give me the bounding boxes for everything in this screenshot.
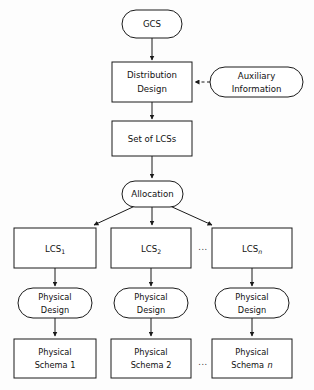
- physical-schema-2-label-line2: Schema 2: [131, 360, 172, 370]
- node-physical-design-n[interactable]: Physical Design: [215, 288, 289, 318]
- lcs2-subscript: 2: [157, 247, 161, 254]
- node-lcsn[interactable]: LCSn: [212, 228, 292, 268]
- node-allocation[interactable]: Allocation: [122, 181, 183, 207]
- node-set-of-lcss[interactable]: Set of LCSs: [112, 121, 192, 156]
- gcs-label: GCS: [143, 19, 161, 29]
- node-physical-schema-2[interactable]: Physical Schema 2: [111, 339, 191, 378]
- physical-design-1-label-line2: Design: [41, 305, 69, 315]
- distribution-design-label-line2: Design: [137, 84, 167, 94]
- physical-design-n-label-line1: Physical: [235, 292, 268, 302]
- auxiliary-information-label-line1: Auxiliary: [238, 71, 275, 81]
- physical-schema-n-suffix: n: [268, 360, 273, 370]
- edge-allocation-to-lcs1: [94, 206, 135, 225]
- distribution-design-shape: [112, 62, 192, 102]
- edge-allocation-to-lcsn: [170, 206, 212, 225]
- physical-schema-1-label-line2: Schema 1: [35, 360, 76, 370]
- node-physical-schema-n[interactable]: Physical Scheman: [212, 339, 292, 378]
- set-of-lcss-label: Set of LCSs: [128, 134, 177, 144]
- physical-schema-n-shape: [212, 339, 292, 378]
- node-physical-schema-1[interactable]: Physical Schema 1: [14, 339, 96, 378]
- physical-schema-n-word: Schema: [231, 360, 264, 370]
- node-lcs2[interactable]: LCS2: [111, 228, 191, 268]
- allocation-label: Allocation: [131, 189, 173, 199]
- lcs1-subscript: 1: [61, 247, 65, 254]
- lcs-row-ellipsis: ...: [198, 243, 207, 252]
- physical-design-2-label-line2: Design: [137, 305, 165, 315]
- physical-schema-1-shape: [14, 339, 96, 378]
- node-physical-design-1[interactable]: Physical Design: [18, 288, 92, 318]
- physical-schema-2-label-line1: Physical: [134, 347, 167, 357]
- schema-row-ellipsis: ...: [198, 358, 207, 367]
- node-physical-design-2[interactable]: Physical Design: [114, 288, 188, 318]
- physical-schema-1-label-line1: Physical: [38, 347, 71, 357]
- node-auxiliary-information[interactable]: Auxiliary Information: [210, 67, 303, 97]
- lcs2-base: LCS: [141, 243, 157, 253]
- physical-schema-2-shape: [111, 339, 191, 378]
- flowchart-svg: GCS Distribution Design Auxiliary Inform…: [0, 0, 314, 390]
- distribution-design-label-line1: Distribution: [127, 70, 177, 80]
- physical-schema-n-label-line1: Physical: [235, 347, 268, 357]
- lcsn-base: LCS: [242, 243, 258, 253]
- lcs1-base: LCS: [45, 243, 61, 253]
- node-gcs[interactable]: GCS: [122, 10, 182, 38]
- physical-design-1-label-line1: Physical: [38, 292, 71, 302]
- lcsn-subscript: n: [258, 247, 262, 254]
- diagram-canvas: GCS Distribution Design Auxiliary Inform…: [0, 0, 314, 390]
- auxiliary-information-label-line2: Information: [232, 84, 282, 94]
- node-distribution-design[interactable]: Distribution Design: [112, 62, 192, 102]
- physical-design-n-label-line2: Design: [238, 305, 266, 315]
- node-lcs1[interactable]: LCS1: [14, 228, 96, 268]
- physical-design-2-label-line1: Physical: [134, 292, 167, 302]
